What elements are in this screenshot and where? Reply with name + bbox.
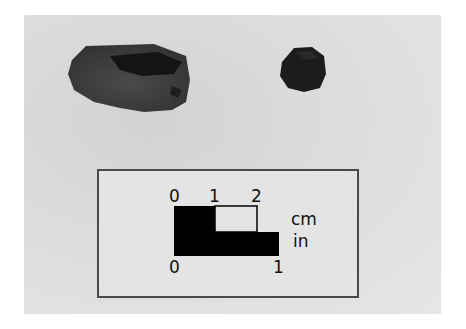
in-tick-0: 0	[169, 259, 180, 276]
cm-tick-0: 0	[169, 188, 180, 205]
cm-tick-2: 2	[251, 188, 262, 205]
scale-bar-graphic	[0, 0, 466, 329]
in-unit-label: in	[293, 233, 309, 250]
cm-tick-1: 1	[209, 188, 220, 205]
in-tick-1: 1	[273, 259, 284, 276]
cm-unit-label: cm	[291, 211, 317, 228]
